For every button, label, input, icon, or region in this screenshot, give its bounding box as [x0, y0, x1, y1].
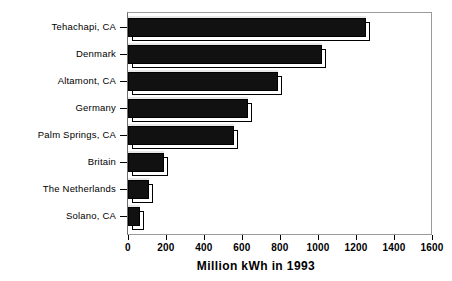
- bar-germany: [128, 99, 248, 118]
- y-axis-label: Palm Springs, CA: [0, 130, 116, 140]
- y-axis-tick: [120, 189, 127, 190]
- y-axis-label: Solano, CA: [0, 211, 116, 221]
- x-axis-tick: [356, 235, 357, 240]
- bar-denmark: [128, 45, 322, 64]
- x-axis-tick: [166, 235, 167, 240]
- bar-row: [128, 176, 432, 203]
- y-axis-label: The Netherlands: [0, 184, 116, 194]
- y-axis-label: Tehachapi, CA: [0, 22, 116, 32]
- y-axis-tick: [120, 135, 127, 136]
- y-axis-label: Britain: [0, 157, 116, 167]
- bar-britain: [128, 153, 164, 172]
- x-axis-title: Million kWh in 1993: [0, 259, 452, 273]
- bar-row: [128, 14, 432, 41]
- bar-palm-springs-ca: [128, 126, 234, 145]
- bar-row: [128, 122, 432, 149]
- bar-row: [128, 41, 432, 68]
- x-axis-tick: [394, 235, 395, 240]
- bar-row: [128, 68, 432, 95]
- x-axis-tick: [280, 235, 281, 240]
- y-axis-tick: [120, 54, 127, 55]
- bars-layer: [128, 12, 432, 235]
- y-axis-label: Denmark: [0, 49, 116, 59]
- bar-row: [128, 203, 432, 230]
- x-axis-tick: [204, 235, 205, 240]
- x-axis-tick: [128, 235, 129, 240]
- y-axis-tick: [120, 108, 127, 109]
- y-axis-tick: [120, 162, 127, 163]
- bar-row: [128, 95, 432, 122]
- bar-tehachapi-ca: [128, 18, 366, 37]
- y-axis-label: Altamont, CA: [0, 76, 116, 86]
- x-axis-tick: [432, 235, 433, 240]
- x-axis-tick: [242, 235, 243, 240]
- y-axis-label: Germany: [0, 103, 116, 113]
- y-axis-tick: [120, 27, 127, 28]
- x-axis-tick-label: 1600: [410, 242, 452, 254]
- y-axis-tick: [120, 81, 127, 82]
- bar-chart: Million kWh in 1993 Tehachapi, CADenmark…: [0, 0, 452, 281]
- bar-row: [128, 149, 432, 176]
- bar-solano-ca: [128, 207, 140, 226]
- bar-altamont-ca: [128, 72, 278, 91]
- x-axis-tick: [318, 235, 319, 240]
- y-axis-tick: [120, 216, 127, 217]
- bar-the-netherlands: [128, 180, 149, 199]
